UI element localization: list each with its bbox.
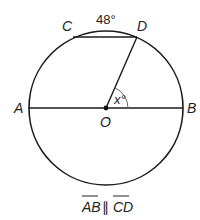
caption-seg-cd: CD bbox=[113, 199, 133, 215]
parallel-caption: AB ∥ CD bbox=[81, 196, 133, 215]
parallel-symbol: ∥ bbox=[102, 199, 109, 215]
center-point bbox=[104, 106, 109, 111]
label-o: O bbox=[100, 114, 111, 130]
label-c: C bbox=[62, 18, 73, 34]
arc-measure-label: 48° bbox=[96, 12, 116, 27]
label-a: A bbox=[13, 100, 23, 116]
angle-x-label: x° bbox=[113, 92, 126, 107]
caption-seg-ab: AB bbox=[81, 199, 101, 215]
label-b: B bbox=[187, 100, 196, 116]
label-d: D bbox=[137, 18, 147, 34]
circle-diagram: C D 48° A B O x° AB ∥ CD bbox=[0, 0, 200, 220]
